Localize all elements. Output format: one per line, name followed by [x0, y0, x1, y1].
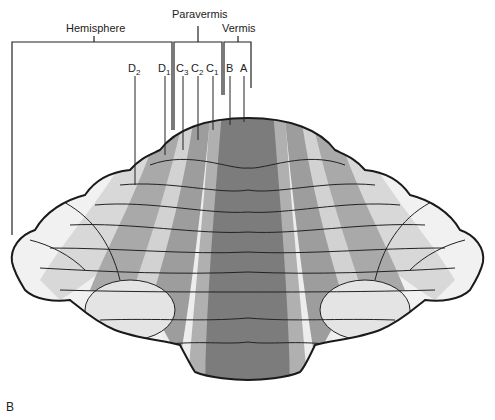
cerebellum-diagram	[0, 0, 495, 420]
hemisphere-label: Hemisphere	[66, 22, 125, 34]
paravermis-label: Paravermis	[172, 8, 228, 20]
zone-label-c2: C2	[191, 62, 203, 77]
zone-label-d2: D2	[128, 62, 140, 77]
zone-label-d1: D1	[158, 62, 170, 77]
zone-label-b: B	[226, 62, 233, 74]
panel-letter: B	[6, 400, 14, 414]
zone-label-c3: C3	[176, 62, 188, 77]
vermis-label: Vermis	[222, 22, 256, 34]
zone-bands	[0, 100, 495, 400]
zone-label-c1: C1	[206, 62, 218, 77]
zone-label-a: A	[240, 62, 247, 74]
